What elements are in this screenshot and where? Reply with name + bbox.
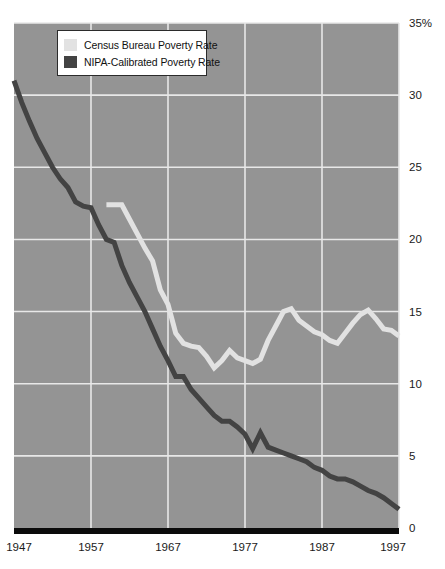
x-axis-tick-labels: 194719571967197719871997 [6, 541, 406, 553]
y-tick-label: 30 [409, 89, 422, 101]
legend-item-nipa: NIPA-Calibrated Poverty Rate [64, 53, 200, 70]
y-tick-label: 10 [409, 378, 422, 390]
y-tick-label: 25 [409, 161, 422, 173]
plot-background [14, 23, 399, 528]
legend-label-census: Census Bureau Poverty Rate [84, 39, 217, 51]
y-tick-label: 0 [409, 522, 415, 534]
x-tick-label: 1987 [309, 541, 335, 553]
poverty-rate-chart: 35%302520151050 194719571967197719871997… [0, 0, 445, 569]
chart-canvas: 35%302520151050 194719571967197719871997 [0, 0, 445, 569]
x-tick-label: 1947 [6, 541, 32, 553]
legend-item-census: Census Bureau Poverty Rate [64, 36, 200, 53]
y-axis-tick-labels: 35%302520151050 [409, 17, 432, 534]
x-tick-label: 1997 [380, 541, 406, 553]
y-tick-label: 5 [409, 450, 415, 462]
legend-swatch-census [64, 39, 77, 51]
legend-label-nipa: NIPA-Calibrated Poverty Rate [84, 56, 220, 68]
y-tick-label: 20 [409, 233, 422, 245]
chart-legend: Census Bureau Poverty Rate NIPA-Calibrat… [57, 30, 207, 76]
y-tick-label: 15 [409, 306, 422, 318]
y-tick-label: 35% [409, 17, 432, 29]
x-axis-line [14, 528, 399, 534]
x-tick-label: 1977 [232, 541, 258, 553]
legend-swatch-nipa [64, 56, 77, 68]
x-tick-label: 1967 [155, 541, 181, 553]
x-tick-label: 1957 [78, 541, 104, 553]
